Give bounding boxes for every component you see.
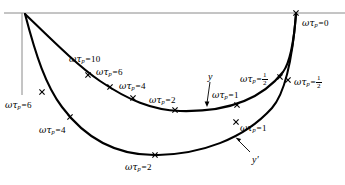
plot-canvas [0, 0, 345, 185]
marker-label-m-y-4: ωτp=4 [119, 82, 146, 92]
marker-label-m-y-6: ωτp=6 [96, 68, 123, 78]
marker-m-yp-6 [39, 89, 44, 94]
figure-container: y y′ ωτp=0ωτp=10ωτp=6ωτp=4ωτp=2ωτp=1ωτp=… [0, 0, 345, 185]
marker-label-m-yp-6: ωτp=6 [5, 101, 32, 111]
marker-label-m-yp-4: ωτp=4 [39, 126, 66, 136]
marker-label-m-y-half: ωτp=12 [240, 72, 268, 87]
marker-m-yp-1 [233, 119, 238, 124]
marker-label-m-y-1: ωτp=1 [212, 91, 239, 101]
arrow-head-y [205, 101, 210, 107]
leader-line-y [207, 82, 210, 103]
marker-label-m-yp-2: ωτp=2 [125, 163, 152, 173]
marker-m-yp-4 [67, 114, 72, 119]
curve-label-y: y [208, 72, 213, 82]
curve-label-y-prime: y′ [252, 155, 259, 165]
marker-label-m-top-right: ωτp=0 [302, 19, 329, 29]
marker-label-m-y-2: ωτp=2 [149, 96, 176, 106]
marker-label-m-y-10: ωτp=10 [69, 55, 100, 65]
marker-label-m-yp-1: ωτp=1 [240, 124, 267, 134]
leader-line-y-prime [238, 140, 250, 152]
marker-label-m-yp-half: ωτp=12 [294, 75, 322, 90]
